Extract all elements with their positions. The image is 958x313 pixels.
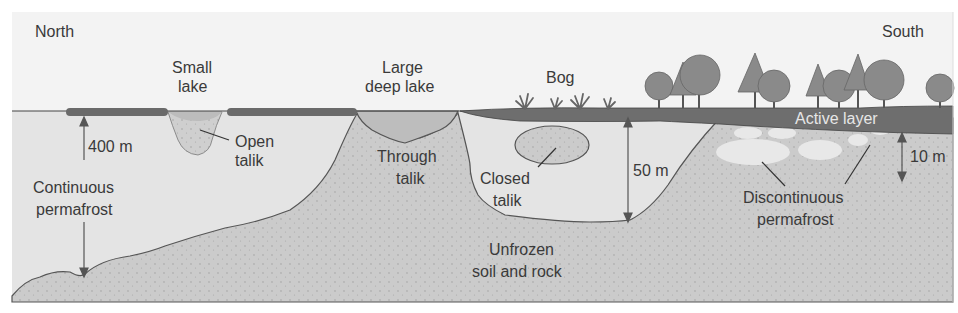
north-surface-lens-2 <box>227 108 357 116</box>
open-talik-label-2: talik <box>235 151 263 170</box>
bog-depth-label: 50 m <box>633 161 669 180</box>
active-layer-label: Active layer <box>795 109 878 128</box>
discontinuous-depth-label: 10 m <box>910 147 946 166</box>
through-talik-label-1: Through <box>377 147 437 166</box>
closed-talik-label-1: Closed <box>480 169 530 188</box>
small-lake-label-1: Small <box>172 58 212 77</box>
through-talik-label-2: talik <box>396 169 424 188</box>
sky-background <box>12 12 953 112</box>
continuous-permafrost-label-2: permafrost <box>36 200 112 219</box>
continuous-permafrost-label-1: Continuous <box>33 178 114 197</box>
north-surface-lens-1 <box>66 108 168 116</box>
south-label: South <box>882 22 924 41</box>
unfrozen-soil-label-1: Unfrozen <box>489 240 554 259</box>
large-lake-label-1: Large <box>382 58 423 77</box>
closed-talik-label-2: talik <box>493 191 521 210</box>
bog-label: Bog <box>546 68 574 87</box>
unfrozen-soil-label-2: soil and rock <box>472 262 562 281</box>
north-label: North <box>35 22 74 41</box>
continuous-depth-label: 400 m <box>88 137 132 156</box>
discontinuous-permafrost-label-2: permafrost <box>757 210 833 229</box>
large-lake-label-2: deep lake <box>365 77 434 96</box>
discontinuous-permafrost-label-1: Discontinuous <box>743 188 844 207</box>
small-lake-label-2: lake <box>178 77 207 96</box>
open-talik-label-1: Open <box>235 132 274 151</box>
